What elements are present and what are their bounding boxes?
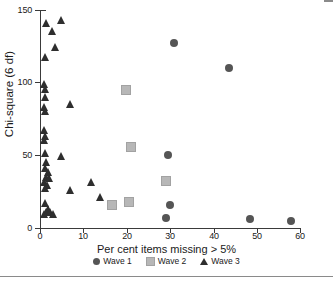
data-point-wave-1 bbox=[170, 39, 178, 47]
data-point-wave-2 bbox=[121, 85, 131, 95]
square-marker-icon bbox=[146, 257, 155, 266]
legend-item-wave-3[interactable]: Wave 3 bbox=[200, 256, 240, 266]
data-point-wave-3 bbox=[96, 193, 104, 201]
data-point-wave-2 bbox=[124, 197, 134, 207]
legend-item-wave-1[interactable]: Wave 1 bbox=[93, 256, 132, 266]
x-tick-label-50: 50 bbox=[245, 231, 269, 241]
data-point-wave-3 bbox=[41, 107, 49, 115]
data-point-wave-3 bbox=[41, 184, 49, 192]
data-point-wave-3 bbox=[48, 27, 56, 35]
chart-legend: Wave 1 Wave 2 Wave 3 bbox=[0, 256, 333, 266]
data-point-wave-3 bbox=[57, 16, 65, 24]
data-point-wave-1 bbox=[246, 215, 254, 223]
data-point-wave-3 bbox=[41, 149, 49, 157]
triangle-marker-icon bbox=[200, 258, 208, 265]
data-point-wave-3 bbox=[87, 178, 95, 186]
y-tick-50 bbox=[35, 155, 40, 156]
data-point-wave-3 bbox=[66, 100, 74, 108]
data-point-wave-3 bbox=[42, 19, 50, 27]
chart-figure: 150 100 50 0 0 10 20 30 40 50 60 Chi-squ… bbox=[0, 0, 333, 283]
data-point-wave-3 bbox=[57, 152, 65, 160]
page-bottom-rule bbox=[0, 276, 333, 277]
data-point-wave-2 bbox=[126, 142, 136, 152]
y-axis-title: Chi-square (6 df) bbox=[3, 19, 15, 169]
data-point-wave-3 bbox=[49, 210, 57, 218]
data-point-wave-3 bbox=[66, 186, 74, 194]
circle-marker-icon bbox=[93, 258, 100, 265]
data-point-wave-3 bbox=[41, 93, 49, 101]
adjacent-panel-rule bbox=[324, 0, 333, 2]
x-tick-label-10: 10 bbox=[71, 231, 95, 241]
x-tick-label-60: 60 bbox=[288, 231, 312, 241]
y-axis-line bbox=[40, 10, 41, 229]
x-axis-title: Per cent items missing > 5% bbox=[0, 243, 333, 255]
data-point-wave-3 bbox=[41, 53, 49, 61]
data-point-wave-1 bbox=[166, 201, 174, 209]
legend-item-wave-2[interactable]: Wave 2 bbox=[146, 256, 187, 266]
y-axis-top-cap bbox=[40, 10, 46, 11]
x-tick-label-0: 0 bbox=[28, 231, 52, 241]
data-point-wave-3 bbox=[40, 136, 48, 144]
data-point-wave-3 bbox=[40, 210, 48, 218]
data-point-wave-2 bbox=[107, 200, 117, 210]
x-tick-label-30: 30 bbox=[158, 231, 182, 241]
legend-label-wave-3: Wave 3 bbox=[211, 256, 240, 266]
x-tick-label-40: 40 bbox=[202, 231, 226, 241]
data-point-wave-1 bbox=[162, 214, 170, 222]
y-tick-150 bbox=[35, 10, 40, 11]
adjacent-panel-clip: Chi-square bbox=[320, 90, 333, 180]
data-point-wave-2 bbox=[161, 176, 171, 186]
data-point-wave-1 bbox=[287, 217, 295, 225]
data-point-wave-1 bbox=[225, 64, 233, 72]
legend-label-wave-2: Wave 2 bbox=[158, 256, 187, 266]
legend-label-wave-1: Wave 1 bbox=[103, 256, 132, 266]
x-tick-label-20: 20 bbox=[115, 231, 139, 241]
y-tick-label-150: 150 bbox=[6, 5, 32, 15]
data-point-wave-3 bbox=[51, 43, 59, 51]
data-point-wave-1 bbox=[164, 151, 172, 159]
